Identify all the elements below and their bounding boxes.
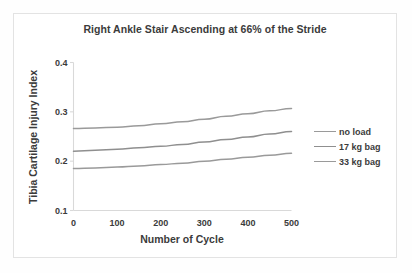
- legend-line-icon: [314, 131, 336, 132]
- x-tick-label: 400: [231, 218, 265, 228]
- data-line: [74, 153, 292, 168]
- legend: no load 17 kg bag 33 kg bag: [314, 124, 398, 169]
- axes: [74, 63, 292, 211]
- figure: Right Ankle Stair Ascending at 66% of th…: [0, 0, 412, 273]
- x-tick-label: 100: [100, 218, 134, 228]
- legend-item-label: 17 kg bag: [339, 142, 381, 152]
- data-line: [74, 132, 292, 152]
- y-tick-label: 0.4: [42, 58, 68, 68]
- y-tick-label: 0.3: [42, 107, 68, 117]
- legend-line-icon: [314, 146, 336, 147]
- y-tick-label: 0.2: [42, 156, 68, 166]
- data-line: [74, 108, 292, 128]
- legend-item: no load: [314, 124, 398, 139]
- legend-item-label: no load: [339, 127, 371, 137]
- x-tick-label: 200: [144, 218, 178, 228]
- x-axis-title: Number of Cycle: [73, 233, 291, 245]
- legend-item: 33 kg bag: [314, 154, 398, 169]
- x-tick-label: 0: [57, 218, 91, 228]
- y-tick-label: 0.1: [42, 206, 68, 216]
- x-tick-label: 500: [275, 218, 309, 228]
- legend-item: 17 kg bag: [314, 139, 398, 154]
- data-lines: [74, 108, 292, 168]
- x-tick-label: 300: [187, 218, 221, 228]
- legend-item-label: 33 kg bag: [339, 157, 381, 167]
- legend-line-icon: [314, 161, 336, 162]
